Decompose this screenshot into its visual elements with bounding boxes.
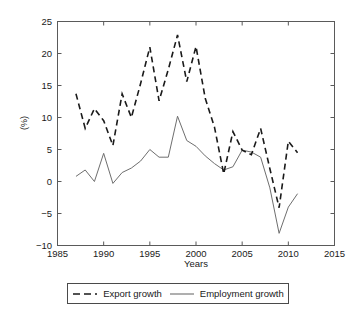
y-tick-label: 15: [10, 80, 52, 91]
y-tick-label: 5: [10, 144, 52, 155]
y-tick-label: 20: [10, 48, 52, 59]
legend-item-employment-growth: Employment growth: [169, 288, 284, 299]
solid-line-icon: [169, 289, 195, 299]
y-axis-label: (%): [19, 103, 29, 143]
legend-label-export-growth: Export growth: [103, 288, 162, 299]
chart-figure: 1985199019952000200520102015 2520151050−…: [0, 0, 356, 313]
y-tick-label: −5: [10, 208, 52, 219]
chart-legend: Export growth Employment growth: [67, 283, 289, 304]
y-tick-label: 25: [10, 16, 52, 27]
legend-item-export-growth: Export growth: [72, 288, 162, 299]
tick-marks: [58, 22, 335, 246]
axis-frame: [58, 22, 335, 246]
legend-label-employment-growth: Employment growth: [200, 288, 284, 299]
x-axis-label: Years: [57, 258, 335, 269]
dashed-line-icon: [72, 289, 98, 299]
y-tick-label: 10: [10, 112, 52, 123]
series-line-export-growth: [76, 35, 298, 208]
y-tick-label: 0: [10, 176, 52, 187]
y-tick-label: −10: [10, 240, 52, 251]
series-line-employment-growth: [76, 116, 298, 233]
